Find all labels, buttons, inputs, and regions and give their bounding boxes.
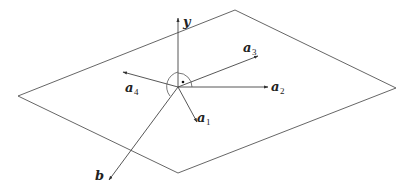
label-y: y bbox=[182, 14, 192, 29]
right-angle-dot bbox=[182, 81, 185, 84]
label-a2: a2 bbox=[271, 79, 284, 96]
label-a1: a1 bbox=[197, 110, 210, 127]
labels-group: ya3a2a4a1b bbox=[95, 14, 284, 183]
vector-b bbox=[109, 87, 178, 180]
label-b: b bbox=[95, 168, 104, 183]
vector-a1 bbox=[178, 87, 197, 122]
vector-a3 bbox=[178, 56, 258, 87]
vector-diagram: ya3a2a4a1b bbox=[0, 0, 406, 187]
label-a3: a3 bbox=[243, 40, 257, 57]
angle-arc-y-a2 bbox=[178, 73, 192, 87]
plane bbox=[18, 10, 396, 173]
label-a4: a4 bbox=[125, 80, 139, 97]
